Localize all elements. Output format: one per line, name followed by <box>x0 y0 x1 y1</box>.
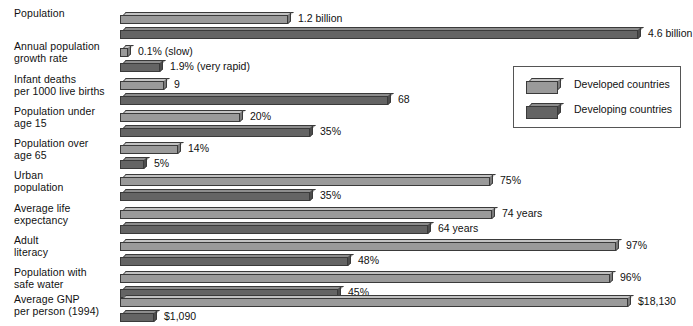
chart-legend: Developed countriesDeveloping countries <box>513 66 681 128</box>
row-label: Adultliteracy <box>14 235 118 258</box>
bar-end-cap <box>610 271 613 283</box>
row-label: Urbanpopulation <box>14 170 118 193</box>
bar-end-cap <box>638 27 641 39</box>
row-label-line1: Urban <box>14 169 43 181</box>
bar-developing <box>120 160 144 169</box>
bar-front-face <box>120 313 154 322</box>
bar-developed <box>120 81 164 90</box>
bar-developed <box>120 145 178 154</box>
bar-end-cap <box>428 222 431 234</box>
bar-front-face <box>120 177 490 186</box>
bar-front-face <box>120 145 178 154</box>
bar-end-cap <box>492 207 495 219</box>
bar-end-cap <box>388 93 391 105</box>
bar-front-face <box>120 128 310 137</box>
bar-value-label: 97% <box>626 239 647 252</box>
bar-front-face <box>120 113 240 122</box>
bar-value-label: 4.6 billion <box>648 27 692 40</box>
row-label-line2: per 1000 live births <box>14 86 118 98</box>
row-label-line2: age 15 <box>14 118 118 130</box>
bar-developing <box>120 128 310 137</box>
row-label-line1: Population under <box>14 105 95 117</box>
bar-front-face <box>526 81 558 94</box>
bar-end-cap <box>128 45 131 57</box>
bar-front-face <box>526 106 558 119</box>
bar-end-cap <box>154 310 157 322</box>
bar-value-label: 96% <box>620 271 641 284</box>
row-label-line1: Average GNP <box>14 293 80 305</box>
bar-value-label: 48% <box>358 254 379 267</box>
bar-front-face <box>120 48 128 57</box>
bar-developed <box>120 177 490 186</box>
bar-front-face <box>120 298 628 307</box>
bar-end-cap <box>490 174 493 186</box>
bar-developed <box>120 48 128 57</box>
row-label-line1: Infant deaths <box>14 73 76 85</box>
bar-front-face <box>120 274 610 283</box>
bar-value-label: 1.9% (very rapid) <box>170 60 250 73</box>
row-label-line1: Adult <box>14 234 38 246</box>
row-label-line2: expectancy <box>14 215 118 227</box>
bar-value-label: 5% <box>154 157 169 170</box>
row-label-line1: Average life <box>14 202 70 214</box>
bar-end-cap <box>178 142 181 154</box>
bar-value-label: $1,090 <box>164 310 196 323</box>
row-label-line1: Population <box>14 7 65 19</box>
bar-front-face <box>120 160 144 169</box>
row-label-line2: literacy <box>14 247 118 259</box>
bar-end-cap <box>240 110 243 122</box>
row-label: Population underage 15 <box>14 106 118 129</box>
bar-developed <box>120 210 492 219</box>
bar-developing <box>120 63 160 72</box>
bar-value-label: 75% <box>500 174 521 187</box>
bar-developed <box>120 298 628 307</box>
legend-label: Developed countries <box>574 78 670 91</box>
bar-end-cap <box>144 157 147 169</box>
bar-developing <box>120 313 154 322</box>
bar-end-cap <box>160 60 163 72</box>
row-label: Infant deathsper 1000 live births <box>14 74 118 97</box>
bar-developing <box>120 257 348 266</box>
bar-front-face <box>120 96 388 105</box>
bar-front-face <box>120 257 348 266</box>
bar-end-cap <box>288 12 291 24</box>
bar-value-label: 35% <box>320 189 341 202</box>
row-label-line2: age 65 <box>14 150 118 162</box>
row-label: Annual populationgrowth rate <box>14 41 118 64</box>
bar-front-face <box>120 30 638 39</box>
bar-developed <box>120 242 616 251</box>
bar-developed <box>120 15 288 24</box>
bar-front-face <box>120 210 492 219</box>
bar-front-face <box>120 242 616 251</box>
row-label-line2: population <box>14 182 118 194</box>
bar-value-label: 1.2 billion <box>298 12 342 25</box>
bar-front-face <box>120 192 310 201</box>
bar-end-cap <box>558 78 561 90</box>
bar-end-cap <box>558 103 561 115</box>
bar-end-cap <box>348 254 351 266</box>
bar-developing <box>120 96 388 105</box>
row-label: Average GNPper person (1994) <box>14 294 118 317</box>
bar-value-label: 14% <box>188 142 209 155</box>
bar-developed <box>120 274 610 283</box>
row-label: Population <box>14 8 118 20</box>
bar-developing <box>120 192 310 201</box>
bar-front-face <box>120 63 160 72</box>
bar-value-label: 20% <box>250 110 271 123</box>
bar-end-cap <box>310 125 313 137</box>
row-label-line1: Population over <box>14 137 88 149</box>
bar-end-cap <box>164 78 167 90</box>
row-label-line2: growth rate <box>14 53 118 65</box>
legend-swatch-developed <box>526 81 558 94</box>
bar-front-face <box>120 15 288 24</box>
bar-end-cap <box>310 189 313 201</box>
bar-value-label: 9 <box>174 78 180 91</box>
bar-developing <box>120 225 428 234</box>
row-label: Population overage 65 <box>14 138 118 161</box>
row-label-line2: per person (1994) <box>14 306 118 318</box>
bar-value-label: 35% <box>320 125 341 138</box>
row-label: Population withsafe water <box>14 267 118 290</box>
bar-developing <box>120 30 638 39</box>
legend-label: Developing countries <box>574 103 672 116</box>
bar-value-label: 0.1% (slow) <box>138 45 193 58</box>
